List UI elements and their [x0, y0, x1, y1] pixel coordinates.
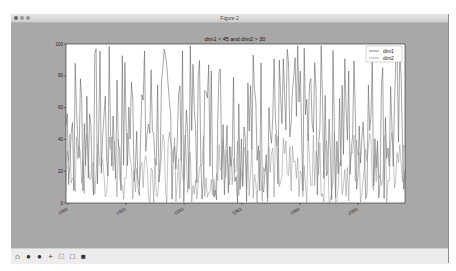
window-title: Figure 2 — [11, 14, 448, 22]
legend-dim1: dim1 — [383, 48, 394, 54]
line-chart: dim1 < 45 and dim2 > 30 020406080100 190… — [11, 23, 448, 248]
legend-dim2: dim2 — [383, 55, 394, 61]
navigation-toolbar: ⌂ ● ● + ⊡ □ ■ — [11, 248, 448, 264]
x-tick-label: 1983 — [289, 206, 301, 216]
zoom-rect-button[interactable]: ⊡ — [57, 252, 66, 261]
title-bar[interactable]: Figure 2 — [11, 14, 448, 23]
back-button[interactable]: ● — [24, 252, 33, 261]
subplots-icon: □ — [70, 252, 75, 261]
forward-button[interactable]: ● — [35, 252, 44, 261]
configure-subplots-button[interactable]: □ — [68, 252, 77, 261]
x-tick-label: 1903 — [57, 206, 69, 216]
x-tick-label: 1943 — [173, 206, 185, 216]
figure-canvas[interactable]: dim1 < 45 and dim2 > 30 020406080100 190… — [11, 23, 448, 248]
y-tick-label: 0 — [60, 201, 63, 206]
pan-button[interactable]: + — [46, 252, 55, 261]
y-tick-label: 60 — [58, 105, 64, 110]
y-tick-label: 100 — [55, 42, 63, 47]
x-tick-label: 1963 — [231, 206, 243, 216]
y-tick-label: 20 — [58, 169, 64, 174]
y-tick-label: 80 — [58, 73, 64, 78]
home-button[interactable]: ⌂ — [13, 252, 22, 261]
pan-move-icon: + — [48, 252, 53, 261]
zoom-rect-icon: ⊡ — [58, 252, 65, 261]
home-icon: ⌂ — [15, 252, 20, 261]
forward-arrow-icon: ● — [37, 252, 42, 261]
save-button[interactable]: ■ — [79, 252, 88, 261]
back-arrow-icon: ● — [26, 252, 31, 261]
x-tick-label: 1923 — [115, 206, 127, 216]
save-disk-icon: ■ — [81, 252, 86, 261]
chart-title: dim1 < 45 and dim2 > 30 — [205, 36, 266, 42]
figure-window: Figure 2 dim1 < 45 and dim2 > 30 0204060… — [11, 14, 449, 263]
y-tick-label: 40 — [58, 137, 64, 142]
legend: dim1 dim2 — [366, 46, 402, 62]
x-tick-label: 2003 — [347, 206, 359, 216]
